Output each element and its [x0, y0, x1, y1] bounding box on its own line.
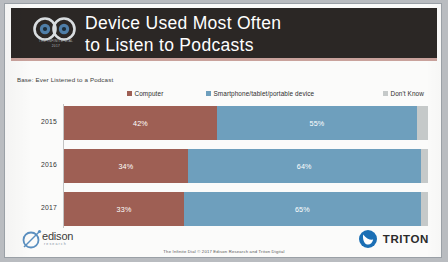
edison-wordmark: edison — [42, 230, 73, 242]
chart-plot-area: 2015 42% 55% 2016 34% 64% — [17, 104, 433, 228]
slide-header: THE INFINITE DIAL 2017 Device Used Most … — [11, 8, 437, 61]
chart-row: 2015 42% 55% — [17, 106, 433, 140]
bar-segment-dont-know — [417, 106, 428, 140]
slide: THE INFINITE DIAL 2017 Device Used Most … — [4, 3, 442, 258]
chart-row: 2016 34% 64% — [17, 149, 433, 183]
bar-value-smartphone: 55% — [309, 119, 324, 128]
category-label: 2015 — [17, 118, 57, 125]
category-label: 2016 — [17, 161, 57, 168]
bar-segment-smartphone: 55% — [217, 106, 417, 140]
infinity-rings-icon — [31, 17, 81, 41]
bar-segment-smartphone: 65% — [184, 192, 421, 226]
infinite-dial-logo: THE INFINITE DIAL 2017 — [25, 14, 87, 56]
copyright-text: The Infinite Dial © 2017 Edison Research… — [5, 249, 442, 254]
logo-caption: THE INFINITE DIAL 2017 — [25, 39, 87, 49]
bar-value-smartphone: 65% — [295, 205, 310, 214]
bar-segment-computer: 33% — [64, 192, 184, 226]
legend-swatch-smartphone — [206, 91, 211, 96]
stacked-bar: 42% 55% — [64, 106, 428, 140]
triton-mark-icon — [358, 229, 378, 249]
slide-footer: edison research TRITON The Infinite Dial… — [5, 223, 442, 257]
stacked-bar: 34% 64% — [64, 149, 428, 183]
legend-swatch-dont-know — [383, 91, 388, 96]
chart-legend: Computer Smartphone/tablet/portable devi… — [127, 90, 437, 101]
category-label: 2017 — [17, 204, 57, 211]
bar-segment-dont-know — [421, 149, 428, 183]
bar-value-smartphone: 64% — [297, 162, 312, 171]
legend-label-computer: Computer — [135, 90, 164, 97]
legend-item-computer: Computer — [127, 90, 163, 97]
bar-value-computer: 42% — [133, 119, 148, 128]
legend-swatch-computer — [127, 91, 132, 96]
triton-wordmark: TRITON — [383, 233, 429, 245]
legend-item-dont-know: Don't Know — [383, 90, 424, 97]
page-title-line2: to Listen to Podcasts — [85, 34, 425, 56]
bar-segment-computer: 34% — [64, 149, 188, 183]
legend-label-dont-know: Don't Know — [391, 90, 424, 97]
page-title-line1: Device Used Most Often — [85, 13, 281, 33]
triton-digital-logo: TRITON — [358, 228, 429, 250]
bar-segment-dont-know — [421, 192, 428, 226]
logo-caption-line1: THE INFINITE DIAL — [39, 39, 73, 43]
stacked-bar: 33% 65% — [64, 192, 428, 226]
legend-item-smartphone: Smartphone/tablet/portable device — [206, 90, 314, 97]
bar-segment-smartphone: 64% — [188, 149, 421, 183]
base-note: Base: Ever Listened to a Podcast — [17, 76, 113, 83]
edison-research-logo: edison research — [21, 227, 111, 251]
page-title: Device Used Most Often to Listen to Podc… — [85, 12, 425, 56]
legend-label-smartphone: Smartphone/tablet/portable device — [214, 90, 315, 97]
edison-subtitle: research — [44, 242, 67, 246]
chart-row: 2017 33% 65% — [17, 192, 433, 226]
edison-mark-icon — [21, 228, 43, 250]
logo-caption-line2: 2017 — [52, 44, 61, 48]
bar-value-computer: 34% — [118, 162, 133, 171]
bar-value-computer: 33% — [117, 205, 132, 214]
bar-segment-computer: 42% — [64, 106, 217, 140]
